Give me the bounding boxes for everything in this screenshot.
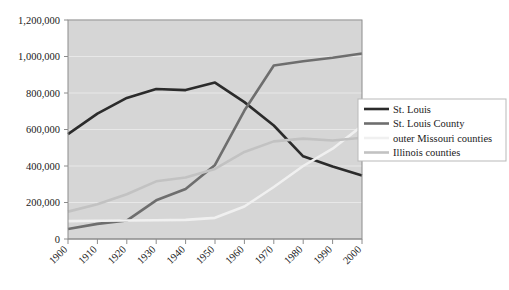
chart-legend: St. LouisSt. Louis Countyouter Missouri … [358,99,506,161]
y-axis-tick-label: 0 [55,234,60,245]
y-axis-tick-label: 600,000 [26,124,60,135]
x-axis-tick-label: 1960 [223,244,246,267]
chart-container: 0200,000400,000600,000800,0001,000,0001,… [0,0,509,290]
population-line-chart: 0200,000400,000600,000800,0001,000,0001,… [0,0,509,290]
x-axis-tick-label: 1900 [47,244,70,267]
x-axis-tick-label: 1910 [76,244,99,267]
y-axis-tick-label: 400,000 [26,161,60,172]
x-axis-tick-label: 2000 [341,244,364,267]
y-axis-tick-label: 1,200,000 [18,15,60,26]
x-axis-tick-label: 1920 [106,244,129,267]
x-axis-tick-label: 1980 [282,244,305,267]
legend-label-3: Illinois counties [393,147,460,158]
x-axis-tick-label: 1930 [135,244,158,267]
y-axis-tick-label: 1,000,000 [18,51,60,62]
x-axis-ticks: 1900191019201930194019501960197019801990… [47,239,364,266]
y-axis-tick-label: 800,000 [26,88,60,99]
legend-label-2: outer Missouri counties [393,133,492,144]
legend-label-1: St. Louis County [393,118,465,129]
x-axis-tick-label: 1940 [164,244,187,267]
x-axis-tick-label: 1950 [194,244,217,267]
legend-label-0: St. Louis [393,104,431,115]
y-axis-ticks: 0200,000400,000600,000800,0001,000,0001,… [18,15,68,245]
x-axis-tick-label: 1990 [311,244,334,267]
x-axis-tick-label: 1970 [253,244,276,267]
y-axis-tick-label: 200,000 [26,197,60,208]
